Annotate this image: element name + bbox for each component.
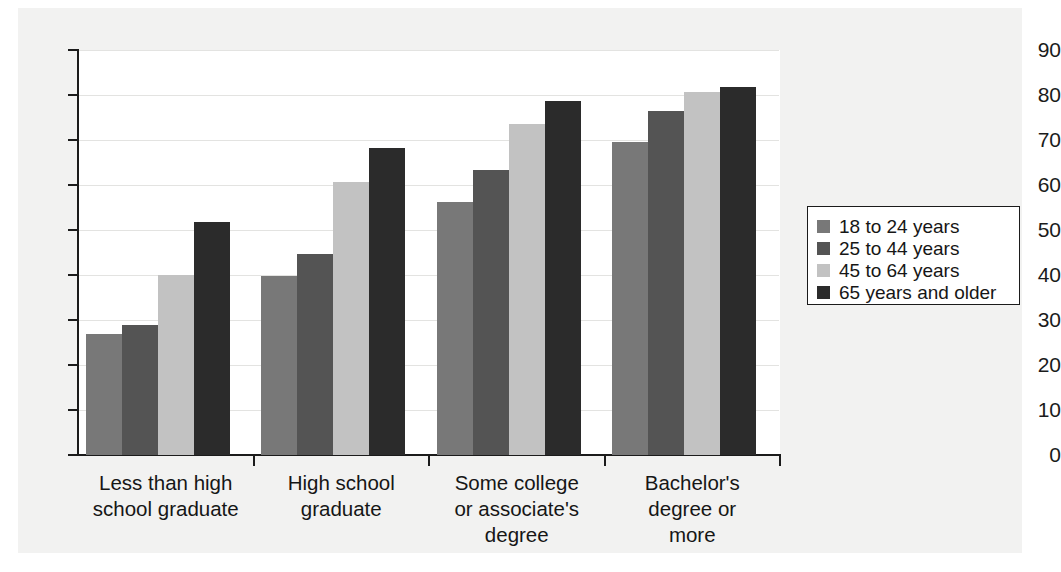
legend-swatch-icon <box>817 264 830 277</box>
bar <box>648 111 684 455</box>
bar <box>612 142 648 455</box>
category-label-line: Less than high <box>68 470 264 496</box>
bar <box>261 276 297 455</box>
category-label-line: Some college <box>419 470 615 496</box>
category-label-line: school graduate <box>68 496 264 522</box>
y-tick-mark <box>68 184 78 186</box>
legend-swatch-icon <box>817 286 830 299</box>
bar <box>545 101 581 455</box>
category-label: Some collegeor associate'sdegree <box>419 470 615 549</box>
category-label-line: more <box>595 522 791 548</box>
legend-item[interactable]: 25 to 44 years <box>817 238 1019 259</box>
category-label-line: degree or <box>595 496 791 522</box>
bar <box>509 124 545 455</box>
y-axis-line <box>77 49 79 456</box>
legend-item[interactable]: 45 to 64 years <box>817 260 1019 281</box>
y-tick-mark <box>68 319 78 321</box>
y-tick-label: 30 <box>999 309 1061 330</box>
bar <box>158 275 194 455</box>
bar <box>297 254 333 455</box>
bar <box>684 92 720 455</box>
bar <box>473 170 509 455</box>
bar <box>333 182 369 455</box>
legend-swatch-icon <box>817 242 830 255</box>
category-label: Bachelor'sdegree ormore <box>595 470 791 549</box>
category-label-line: degree <box>419 522 615 548</box>
y-tick-mark <box>68 139 78 141</box>
y-tick-mark <box>68 229 78 231</box>
x-tick-mark <box>604 456 606 466</box>
legend-label: 18 to 24 years <box>839 217 959 236</box>
y-tick-label: 10 <box>999 399 1061 420</box>
y-tick-label: 60 <box>999 174 1061 195</box>
y-tick-label: 80 <box>999 84 1061 105</box>
category-label-line: High school <box>244 470 440 496</box>
gridline <box>79 95 779 96</box>
y-tick-mark <box>68 454 78 456</box>
category-label-line: Bachelor's <box>595 470 791 496</box>
y-tick-label: 90 <box>999 39 1061 60</box>
bar <box>86 334 122 455</box>
legend-item[interactable]: 65 years and older <box>817 282 1019 303</box>
gridline <box>79 50 779 51</box>
bar <box>194 222 230 455</box>
y-tick-mark <box>68 274 78 276</box>
bar <box>437 202 473 455</box>
category-label-line: graduate <box>244 496 440 522</box>
chart-legend: 18 to 24 years25 to 44 years45 to 64 yea… <box>807 206 1020 305</box>
x-tick-mark <box>428 456 430 466</box>
legend-swatch-icon <box>817 220 830 233</box>
y-tick-label: 70 <box>999 129 1061 150</box>
bar <box>720 87 756 455</box>
legend-item[interactable]: 18 to 24 years <box>817 216 1019 237</box>
legend-label: 45 to 64 years <box>839 261 959 280</box>
bar <box>369 148 405 455</box>
y-tick-mark <box>68 94 78 96</box>
chart-figure: 0102030405060708090 Less than highschool… <box>0 0 1061 572</box>
y-tick-mark <box>68 409 78 411</box>
category-label-line: or associate's <box>419 496 615 522</box>
bar <box>122 325 158 456</box>
legend-label: 25 to 44 years <box>839 239 959 258</box>
x-tick-mark <box>253 456 255 466</box>
category-label: High schoolgraduate <box>244 470 440 522</box>
y-tick-mark <box>68 49 78 51</box>
category-label: Less than highschool graduate <box>68 470 264 522</box>
legend-label: 65 years and older <box>839 283 996 302</box>
x-tick-mark <box>779 456 781 466</box>
y-tick-label: 0 <box>999 444 1061 465</box>
y-tick-label: 20 <box>999 354 1061 375</box>
y-tick-mark <box>68 364 78 366</box>
